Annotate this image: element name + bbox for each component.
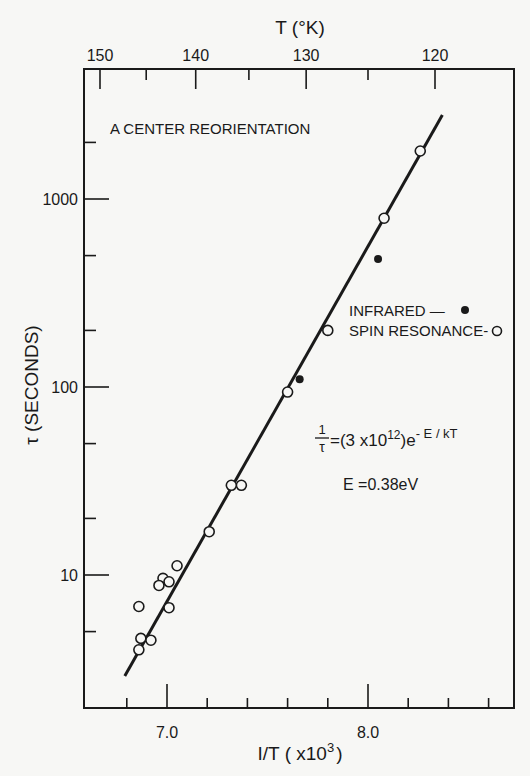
infrared-point [374, 255, 382, 263]
x-tick-label: 7.0 [156, 724, 178, 741]
equation-rhs: =(3 x1012)e- E / kT [330, 426, 458, 450]
y-tick-label: 100 [51, 379, 78, 396]
legend-spin-resonance-label: SPIN RESONANCE- [349, 322, 488, 339]
spin-resonance-point [134, 645, 144, 655]
spin-resonance-point [323, 325, 333, 335]
chart: 7.08.0101001000150140130120 T (°K) I/T (… [0, 0, 530, 776]
top-tick-label: 120 [422, 47, 449, 64]
activation-energy: E =0.38eV [343, 476, 419, 493]
spin-resonance-point [204, 527, 214, 537]
x-axis-title: I/T ( x103) [258, 740, 343, 764]
legend-open-circle-icon [493, 327, 502, 336]
legend-filled-circle-icon [461, 306, 469, 314]
spin-resonance-point [164, 577, 174, 587]
legend: INFRARED — SPIN RESONANCE- [349, 302, 502, 339]
spin-resonance-point [154, 580, 164, 590]
top-axis-title: T (°K) [275, 17, 324, 38]
spin-resonance-point [236, 480, 246, 490]
top-tick-label: 140 [182, 47, 209, 64]
equation-denominator: τ [319, 439, 325, 455]
spin-resonance-point [226, 480, 236, 490]
infrared-point [296, 375, 304, 383]
spin-resonance-point [172, 561, 182, 571]
plot-frame [84, 69, 514, 708]
equation-numerator: 1 [318, 422, 325, 437]
legend-infrared-label: INFRARED — [349, 302, 445, 319]
y-axis-title: τ (SECONDS) [21, 325, 42, 444]
spin-resonance-point [136, 633, 146, 643]
top-tick-label: 130 [293, 47, 320, 64]
spin-resonance-point [283, 387, 293, 397]
spin-resonance-point [134, 601, 144, 611]
spin-resonance-point [146, 635, 156, 645]
spin-resonance-point [164, 603, 174, 613]
top-tick-label: 150 [87, 47, 114, 64]
spin-resonance-point [415, 146, 425, 156]
y-tick-label: 10 [60, 567, 78, 584]
spin-resonance-point [379, 213, 389, 223]
x-tick-label: 8.0 [357, 724, 379, 741]
axis-tick-labels: 7.08.0101001000150140130120 [42, 47, 448, 741]
chart-title: A CENTER REORIENTATION [110, 120, 310, 137]
rate-equation: 1 τ =(3 x1012)e- E / kT E =0.38eV [315, 422, 458, 493]
y-tick-label: 1000 [42, 191, 78, 208]
